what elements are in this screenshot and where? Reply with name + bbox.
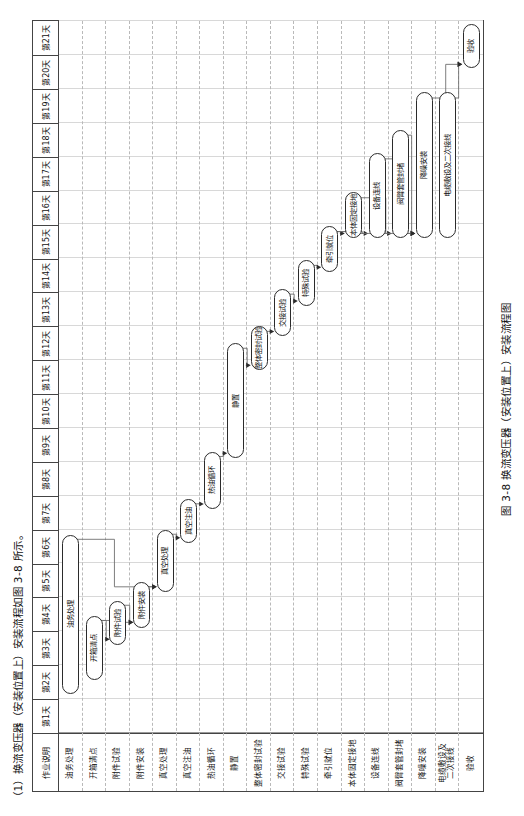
row-label-11: 特殊试验 xyxy=(294,733,317,791)
table-row: 特殊试验 xyxy=(294,21,318,791)
row-track-1 xyxy=(59,21,82,733)
row-label-14: 设备连线 xyxy=(365,733,388,791)
table-row: 阀臂套管封堵 xyxy=(389,21,413,791)
header-cell-day-3: 第3天 xyxy=(33,631,58,665)
header-cell-day-13: 第13天 xyxy=(33,292,58,326)
row-label-6: 真空注油 xyxy=(177,733,200,791)
row-track-17 xyxy=(436,21,459,733)
table-row: 静置 xyxy=(224,21,248,791)
row-track-10 xyxy=(271,21,294,733)
header-cell-day-8: 第8天 xyxy=(33,462,58,496)
row-label-10: 交接试验 xyxy=(271,733,294,791)
row-label-3: 附件试验 xyxy=(106,733,129,791)
header-cell-day-19: 第19天 xyxy=(33,89,58,123)
header-cell-day-16: 第16天 xyxy=(33,191,58,225)
header-cell-day-10: 第10天 xyxy=(33,394,58,428)
top-caption: （1）换流变压器（安装位置上）安装流程如图 3-8 所示。 xyxy=(10,530,25,802)
gantt-flow-chart: 作业说明第1天第2天第3天第4天第5天第6天第7天第8天第9天第10天第11天第… xyxy=(32,20,484,792)
header-cell-day-4: 第4天 xyxy=(33,597,58,631)
row-track-8 xyxy=(224,21,247,733)
figure-caption: 图 3-8 换流变压器（安装位置上）安装流程图 xyxy=(498,303,513,516)
header-cell-day-21: 第21天 xyxy=(33,21,58,55)
table-row: 交接试验 xyxy=(271,21,295,791)
table-row: 热油循环 xyxy=(200,21,224,791)
table-row: 真空注油 xyxy=(177,21,201,791)
row-track-4 xyxy=(130,21,153,733)
row-track-3 xyxy=(106,21,129,733)
row-label-4: 附件安装 xyxy=(130,733,153,791)
header-cell-day-12: 第12天 xyxy=(33,326,58,360)
table-row: 油务处理 xyxy=(59,21,83,791)
table-row: 真空处理 xyxy=(153,21,177,791)
header-cell-day-1: 第1天 xyxy=(33,699,58,733)
row-label-17: 电缆敷设及 二次接线 xyxy=(436,733,459,791)
row-label-5: 真空处理 xyxy=(153,733,176,791)
row-track-13 xyxy=(342,21,365,733)
table-row: 降噪安装 xyxy=(412,21,436,791)
header-cell-day-2: 第2天 xyxy=(33,665,58,699)
table-row: 附件试验 xyxy=(106,21,130,791)
table-row: 电缆敷设及 二次接线 xyxy=(436,21,460,791)
table-row: 牵引就位 xyxy=(318,21,342,791)
row-track-7 xyxy=(200,21,223,733)
row-label-13: 本体固定接地 xyxy=(342,733,365,791)
header-cell-day-9: 第9天 xyxy=(33,428,58,462)
header-cell-day-5: 第5天 xyxy=(33,564,58,598)
row-track-15 xyxy=(389,21,412,733)
row-track-18 xyxy=(459,21,483,733)
row-label-7: 热油循环 xyxy=(200,733,223,791)
header-cell-day-14: 第14天 xyxy=(33,259,58,293)
header-cell-day-18: 第18天 xyxy=(33,123,58,157)
header-cell-day-17: 第17天 xyxy=(33,157,58,191)
row-label-1: 油务处理 xyxy=(59,733,82,791)
rotated-page-wrapper: （1）换流变压器（安装位置上）安装流程如图 3-8 所示。 作业说明第1天第2天… xyxy=(0,0,524,816)
row-label-8: 静置 xyxy=(224,733,247,791)
header-cell-day-11: 第11天 xyxy=(33,360,58,394)
row-label-16: 降噪安装 xyxy=(412,733,435,791)
row-track-12 xyxy=(318,21,341,733)
chart-header-row: 作业说明第1天第2天第3天第4天第5天第6天第7天第8天第9天第10天第11天第… xyxy=(33,21,59,791)
row-track-9 xyxy=(247,21,270,733)
table-row: 设备连线 xyxy=(365,21,389,791)
header-cell-day-15: 第15天 xyxy=(33,225,58,259)
header-cell-day-6: 第6天 xyxy=(33,530,58,564)
row-track-14 xyxy=(365,21,388,733)
row-track-6 xyxy=(177,21,200,733)
row-label-2: 开箱清点 xyxy=(83,733,106,791)
row-label-9: 整体密封试验 xyxy=(247,733,270,791)
table-row: 开箱清点 xyxy=(83,21,107,791)
table-row: 整体密封试验 xyxy=(247,21,271,791)
header-cell-day-20: 第20天 xyxy=(33,55,58,89)
row-track-11 xyxy=(294,21,317,733)
header-cell-day-7: 第7天 xyxy=(33,496,58,530)
row-label-15: 阀臂套管封堵 xyxy=(389,733,412,791)
row-track-16 xyxy=(412,21,435,733)
header-cell-description: 作业说明 xyxy=(33,733,58,791)
table-row: 附件安装 xyxy=(130,21,154,791)
table-row: 验收 xyxy=(459,21,483,791)
row-label-18: 验收 xyxy=(459,733,483,791)
row-track-5 xyxy=(153,21,176,733)
row-label-12: 牵引就位 xyxy=(318,733,341,791)
page: （1）换流变压器（安装位置上）安装流程如图 3-8 所示。 作业说明第1天第2天… xyxy=(0,0,524,816)
chart-body: 油务处理开箱清点附件试验附件安装真空处理真空注油热油循环静置整体密封试验交接试验… xyxy=(59,21,483,791)
row-track-2 xyxy=(83,21,106,733)
table-row: 本体固定接地 xyxy=(342,21,366,791)
